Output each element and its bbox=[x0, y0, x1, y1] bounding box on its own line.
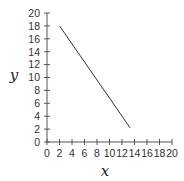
y-tick-label: 20 bbox=[28, 7, 40, 19]
y-tick-label: 14 bbox=[28, 46, 40, 58]
y-tick-label: 10 bbox=[28, 71, 40, 83]
plot-area bbox=[60, 26, 131, 128]
y-tick-label: 0 bbox=[34, 136, 40, 148]
data-line bbox=[60, 26, 131, 128]
y-tick-label: 4 bbox=[34, 110, 40, 122]
x-axis: 02468101214161820 bbox=[44, 139, 178, 159]
y-tick-label: 12 bbox=[28, 58, 40, 70]
x-tick-label: 2 bbox=[57, 147, 63, 159]
x-tick-label: 16 bbox=[141, 147, 153, 159]
x-tick-label: 0 bbox=[44, 147, 50, 159]
x-tick-label: 12 bbox=[116, 147, 128, 159]
y-tick-label: 2 bbox=[34, 123, 40, 135]
x-tick-label: 20 bbox=[166, 147, 178, 159]
x-tick-label: 10 bbox=[104, 147, 116, 159]
y-axis: 02468101214161820 bbox=[28, 7, 50, 148]
line-chart: 02468101214161820 02468101214161820 x y bbox=[0, 0, 184, 181]
y-tick-label: 6 bbox=[34, 97, 40, 109]
x-tick-label: 18 bbox=[154, 147, 166, 159]
y-tick-label: 8 bbox=[34, 84, 40, 96]
y-tick-label: 18 bbox=[28, 20, 40, 32]
y-tick-label: 16 bbox=[28, 33, 40, 45]
x-axis-title: x bbox=[101, 162, 110, 180]
x-tick-label: 14 bbox=[129, 147, 141, 159]
x-tick-label: 8 bbox=[94, 147, 100, 159]
x-tick-label: 4 bbox=[69, 147, 75, 159]
x-tick-label: 6 bbox=[82, 147, 88, 159]
y-axis-title: y bbox=[9, 66, 19, 84]
